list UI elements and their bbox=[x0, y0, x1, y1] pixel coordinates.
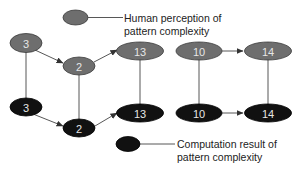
node-computation-2-label: 2 bbox=[76, 123, 82, 135]
arrow-h2-h13 bbox=[94, 50, 117, 62]
node-computation-3-label: 3 bbox=[23, 102, 29, 114]
legend-human-label-line2: pattern complexity bbox=[124, 25, 210, 37]
human-nodes: 3 2 13 10 14 bbox=[10, 34, 292, 76]
node-human-14: 14 bbox=[245, 42, 292, 60]
legend-human-label-line1: Human perception of bbox=[124, 12, 222, 24]
legend-computation-swatch bbox=[116, 137, 140, 152]
node-computation-14: 14 bbox=[245, 104, 292, 122]
arrow-c2-c13 bbox=[95, 113, 117, 126]
arrow-h3-h2 bbox=[35, 50, 63, 63]
legend-human-swatch bbox=[63, 10, 88, 25]
node-computation-10-label: 10 bbox=[193, 108, 205, 120]
arrow-c3-c2 bbox=[33, 114, 63, 126]
node-human-2-label: 2 bbox=[76, 61, 82, 73]
node-human-3: 3 bbox=[10, 34, 42, 53]
legend-human: Human perception of pattern complexity bbox=[63, 10, 222, 37]
node-computation-13-label: 13 bbox=[134, 108, 146, 120]
node-computation-3: 3 bbox=[10, 98, 42, 116]
node-computation-13: 13 bbox=[117, 104, 164, 122]
computation-nodes: 3 2 13 10 14 bbox=[10, 98, 292, 137]
node-human-10: 10 bbox=[176, 42, 222, 60]
legend-computation-label-line2: pattern complexity bbox=[177, 151, 263, 163]
node-human-13: 13 bbox=[117, 42, 164, 60]
complexity-diagram: Human perception of pattern complexity 3… bbox=[0, 0, 302, 171]
node-human-10-label: 10 bbox=[193, 46, 205, 58]
node-human-2: 2 bbox=[63, 57, 95, 75]
node-human-13-label: 13 bbox=[134, 46, 146, 58]
node-human-14-label: 14 bbox=[262, 46, 274, 58]
node-computation-10: 10 bbox=[176, 104, 222, 122]
node-computation-2: 2 bbox=[63, 119, 95, 137]
legend-computation-label-line1: Computation result of bbox=[177, 138, 277, 150]
node-computation-14-label: 14 bbox=[262, 108, 274, 120]
legend-computation: Computation result of pattern complexity bbox=[116, 137, 277, 164]
node-human-3-label: 3 bbox=[23, 38, 29, 50]
